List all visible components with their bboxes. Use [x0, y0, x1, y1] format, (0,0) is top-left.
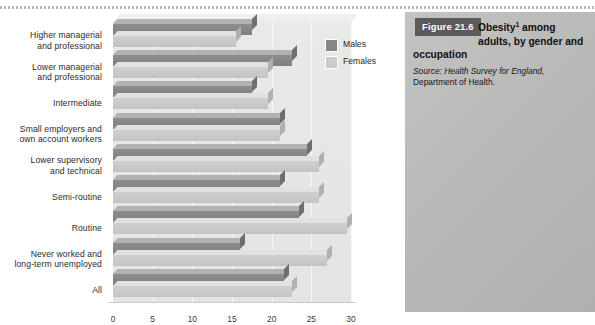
top-dotted-rule: [0, 6, 595, 9]
bar-females: [113, 67, 268, 78]
bar-front-face: [113, 130, 280, 141]
category-label: Higher managerialand professional: [0, 30, 102, 50]
legend-label-females: Females: [343, 56, 376, 67]
bar-side-face: [240, 233, 245, 249]
x-tick-label: 10: [181, 314, 203, 324]
category-label: Routine: [0, 223, 102, 233]
bar-females: [113, 161, 319, 172]
x-axis-line: [108, 302, 356, 303]
figure-source-name: Health Survey for England,: [442, 66, 544, 76]
bar-side-face: [299, 201, 304, 217]
chart-legend: Males Females: [325, 37, 403, 71]
bar-side-face: [284, 264, 289, 280]
bar-side-face: [252, 76, 257, 92]
bar-front-face: [113, 286, 292, 297]
bar-front-face: [113, 192, 319, 203]
x-tick-label: 25: [300, 314, 322, 324]
x-tick-label: 0: [102, 314, 124, 324]
figure-caption-panel: Figure 21.6 Obesity1 amongadults, by gen…: [405, 12, 595, 312]
figure-source-dept: Department of Health.: [413, 77, 495, 87]
x-tick-label: 20: [261, 314, 283, 324]
bar-side-face: [292, 45, 297, 61]
plot-area: [113, 21, 351, 302]
legend-item-females[interactable]: Females: [325, 54, 403, 71]
figure-source: Source: Health Survey for England, Depar…: [413, 66, 595, 87]
bar-side-face: [319, 151, 324, 167]
legend-swatch-males-icon: [325, 39, 338, 52]
bar-females: [113, 130, 280, 141]
figure-title-line1: Obesity1 amongadults, by gender and: [478, 18, 594, 48]
bar-side-face: [292, 276, 297, 292]
bar-females: [113, 286, 292, 297]
bar-females: [113, 223, 347, 234]
x-tick-label: 30: [340, 314, 362, 324]
chart-panel: Higher managerialand professionalLower m…: [0, 12, 400, 312]
category-label: Intermediate: [0, 98, 102, 108]
legend-item-males[interactable]: Males: [325, 37, 403, 54]
category-label: Never worked andlong-term unemployed: [0, 249, 102, 269]
figure-title-line3: occupation: [413, 48, 595, 62]
category-label: Small employers andown account workers: [0, 124, 102, 144]
bar-side-face: [236, 26, 241, 42]
figure-source-label: Source:: [413, 66, 442, 76]
figure-number-badge: Figure 21.6: [415, 18, 481, 36]
legend-label-males: Males: [343, 39, 366, 50]
x-axis-tick-labels: 051015202530: [0, 314, 400, 325]
category-label: Semi-routine: [0, 192, 102, 202]
bar-front-face: [113, 67, 268, 78]
category-label: Lower managerialand professional: [0, 62, 102, 82]
bar-females: [113, 192, 319, 203]
figure-page: Higher managerialand professionalLower m…: [0, 0, 595, 325]
bar-females: [113, 255, 327, 266]
bar-front-face: [113, 255, 327, 266]
category-label: Lower supervisoryand technical: [0, 155, 102, 175]
category-label: All: [0, 285, 102, 295]
x-tick-label: 15: [221, 314, 243, 324]
figure-title-word: Obesity: [478, 22, 515, 33]
bar-front-face: [113, 98, 268, 109]
bar-front-face: [113, 36, 236, 47]
bar-females: [113, 98, 268, 109]
bar-front-face: [113, 223, 347, 234]
bar-side-face: [280, 170, 285, 186]
bar-females: [113, 36, 236, 47]
legend-swatch-females-icon: [325, 56, 338, 69]
bar-side-face: [327, 245, 332, 261]
figure-title-line2: adults, by gender and: [478, 36, 583, 47]
bar-side-face: [319, 182, 324, 198]
figure-title-rest: among: [519, 22, 555, 33]
bar-front-face: [113, 161, 319, 172]
category-axis-labels: Higher managerialand professionalLower m…: [0, 24, 108, 306]
x-tick-label: 5: [142, 314, 164, 324]
